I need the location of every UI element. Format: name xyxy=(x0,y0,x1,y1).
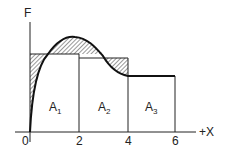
area-a3-label: A3 xyxy=(145,100,158,116)
area-a2-label: A2 xyxy=(98,100,111,116)
hatch-region-1 xyxy=(30,54,48,132)
x-axis-label: +X xyxy=(199,125,214,139)
tick-6: 6 xyxy=(172,134,179,148)
tick-0: 0 xyxy=(22,134,29,148)
area-a1-label: A1 xyxy=(49,100,62,116)
force-displacement-diagram: F +X 0 2 4 6 A1 A2 A3 xyxy=(0,0,226,150)
y-axis-label: F xyxy=(24,6,31,20)
tick-4: 4 xyxy=(125,134,132,148)
tick-2: 2 xyxy=(76,134,83,148)
